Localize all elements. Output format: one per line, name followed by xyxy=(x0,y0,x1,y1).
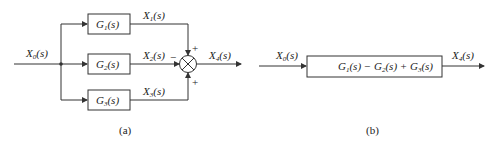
caption-a: (a) xyxy=(119,124,132,137)
sign-minus: − xyxy=(170,51,176,63)
input-label-b: X0(s) xyxy=(275,49,298,63)
sign-plus-bottom: + xyxy=(192,76,198,88)
block-g1-label: G1(s) xyxy=(96,18,119,32)
diagram-b: X0(s) G1(s) − G2(s) + G3(s) X4(s) (b) xyxy=(259,49,484,137)
block-g3-label: G3(s) xyxy=(96,94,119,108)
x3-label: X3(s) xyxy=(142,85,165,99)
summing-junction xyxy=(180,56,197,73)
output-label-b: X4(s) xyxy=(451,49,474,63)
sign-plus-top: + xyxy=(192,42,198,54)
caption-b: (b) xyxy=(366,124,379,137)
diagram-a: X0(s) G1(s) G2(s) G3(s) X1(s) X2(s) X3(s… xyxy=(14,9,241,137)
output-label-a: X4(s) xyxy=(208,49,231,63)
x2-label: X2(s) xyxy=(142,49,165,63)
input-label-a: X0(s) xyxy=(25,47,48,61)
block-diagram-figure: X0(s) G1(s) G2(s) G3(s) X1(s) X2(s) X3(s… xyxy=(0,0,497,146)
x1-label: X1(s) xyxy=(142,9,165,23)
block-g2-label: G2(s) xyxy=(96,58,119,72)
